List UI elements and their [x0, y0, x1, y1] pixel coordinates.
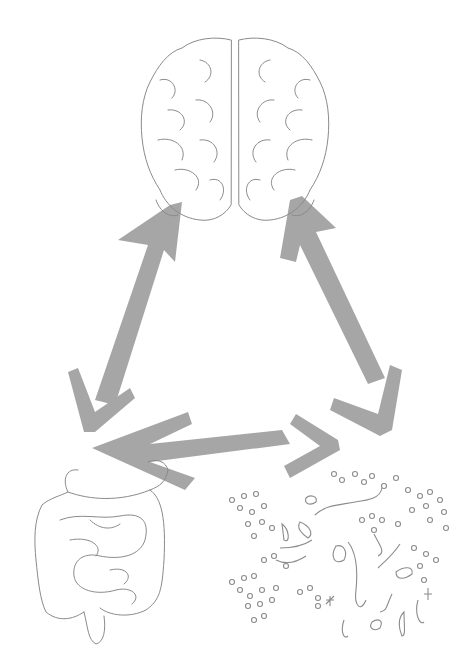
intestines-icon	[35, 460, 168, 644]
arrow-brain-gut	[68, 202, 182, 432]
bacteria-icon	[230, 472, 449, 638]
arrows	[68, 196, 402, 490]
brain-gut-microbiome-diagram	[0, 0, 472, 669]
arrow-brain-microbiome	[280, 196, 402, 436]
brain-icon	[141, 38, 328, 220]
cocci-clusters	[230, 472, 449, 623]
arrow-gut-microbiome	[92, 412, 340, 490]
bacilli-chains	[276, 488, 432, 637]
